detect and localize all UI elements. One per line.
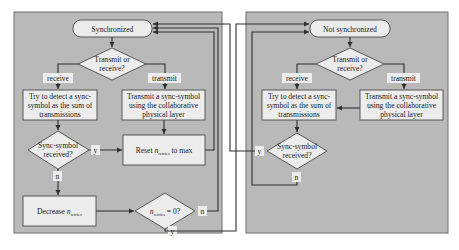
- not-synchronized-panel-bg: [246, 12, 448, 233]
- right-transmit-label: transmit: [391, 74, 417, 83]
- synchronized-title: Synchronized: [92, 25, 134, 34]
- left-decision-tx-rx-line1: Transmit or: [94, 55, 130, 64]
- left-decision-received-line1: Sync-symbol: [38, 141, 78, 150]
- right-detect-line3: transmissions: [278, 110, 319, 119]
- left-detect-line1: Try to detect a sync-: [29, 92, 92, 101]
- left-receive-label: receive: [47, 74, 70, 83]
- left-transmit-line1: Transmit a sync-symbol: [127, 92, 200, 101]
- right-decision-received-line1: Sync-symbol: [277, 142, 317, 151]
- left-no-label: n: [56, 172, 60, 181]
- right-decision-tx-rx-line2: receive?: [337, 64, 363, 73]
- left-transmit-label: transmit: [152, 74, 178, 83]
- left-zero-no-label: n: [201, 207, 205, 216]
- left-transmit-line3: physical layer: [142, 110, 185, 119]
- left-decision-tx-rx-line2: receive?: [99, 64, 125, 73]
- right-transmit-line1: Transmit a sync-symbol: [365, 92, 438, 101]
- synchronized-state-panel: Synchronized Transmit or receive? receiv…: [14, 12, 222, 236]
- right-detect-line2: symbol as the sum of: [267, 101, 332, 110]
- not-synchronized-title: Not synchronized: [323, 25, 377, 34]
- sync-state-flowchart: Synchronized Transmit or receive? receiv…: [0, 0, 459, 250]
- right-yes-label: y: [258, 147, 262, 156]
- left-yes-label: y: [94, 146, 98, 155]
- not-synchronized-state-panel: Not synchronized Transmit or receive? re…: [246, 12, 448, 233]
- right-no-label: n: [295, 173, 299, 182]
- right-decision-received-line2: received?: [282, 151, 312, 160]
- left-transmit-line2: using the collaborative: [129, 101, 199, 110]
- left-detect-line3: transmissions: [39, 110, 80, 119]
- right-receive-label: receive: [286, 74, 309, 83]
- left-detect-line2: symbol as the sum of: [28, 101, 93, 110]
- right-transmit-line3: physical layer: [380, 110, 423, 119]
- right-decision-tx-rx-line1: Transmit or: [332, 55, 368, 64]
- right-transmit-line2: using the collaborative: [367, 101, 437, 110]
- right-detect-line1: Try to detect a sync-: [268, 92, 331, 101]
- left-decision-received-line2: received?: [43, 150, 73, 159]
